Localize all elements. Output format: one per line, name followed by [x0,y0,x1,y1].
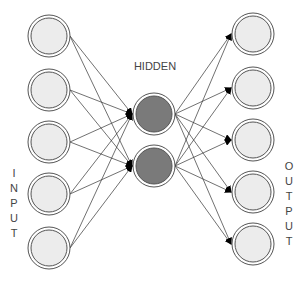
connection-edge [70,114,132,194]
hidden-node [133,93,175,135]
label-letter: T [286,234,293,249]
output-node [232,171,274,213]
connection-edge [175,166,231,244]
connection-edge [70,114,132,248]
input-node [28,227,70,269]
input-node [28,69,70,111]
output-node [232,13,274,55]
output-node [232,119,274,161]
input-layer-label: INPUT [8,166,20,241]
label-letter: I [12,166,15,181]
input-node [28,121,70,163]
hidden-node [133,145,175,187]
output-node [232,67,274,109]
label-letter: U [10,211,18,226]
output-node [232,223,274,265]
label-letter: U [285,219,293,234]
label-letter: T [11,226,18,241]
label-letter: P [10,196,17,211]
label-letter: U [285,174,293,189]
network-graph [0,0,304,283]
connection-edge [70,114,132,142]
label-letter: P [285,204,292,219]
connection-edge [175,88,231,114]
connection-edge [175,34,231,114]
connection-edge [70,166,132,248]
neural-network-diagram: HIDDEN INPUT OUTPUT [0,0,304,283]
label-letter: T [286,189,293,204]
input-node [28,173,70,215]
connection-edge [70,166,132,194]
network-nodes [28,13,274,269]
label-letter: N [10,181,18,196]
hidden-layer-label: HIDDEN [0,60,304,72]
connection-edge [175,140,231,166]
output-layer-label: OUTPUT [283,159,295,249]
input-node [28,15,70,57]
label-letter: O [285,159,294,174]
connection-edge [175,166,231,192]
